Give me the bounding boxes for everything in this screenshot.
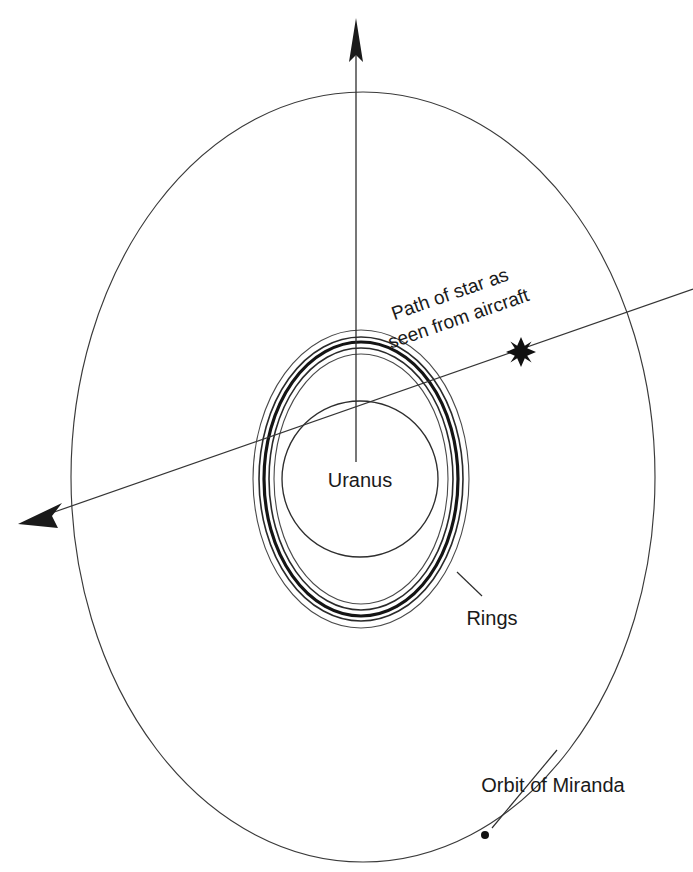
- rings-label: Rings: [466, 607, 517, 629]
- orbit-of-miranda-label: Orbit of Miranda: [481, 774, 625, 796]
- rings-leader-line: [457, 572, 482, 596]
- arrow-left-icon: [18, 503, 62, 528]
- star-path-label-group: Path of star as seen from aircraft: [377, 259, 533, 352]
- rotation-axis: [349, 18, 363, 462]
- miranda-dot: [481, 831, 489, 839]
- occultation-diagram: Uranus Rings Orbit of Miranda Path of st…: [0, 0, 693, 872]
- star-glyph: [506, 337, 536, 367]
- uranus-label: Uranus: [328, 469, 392, 491]
- diagram-canvas: Uranus Rings Orbit of Miranda Path of st…: [0, 0, 693, 872]
